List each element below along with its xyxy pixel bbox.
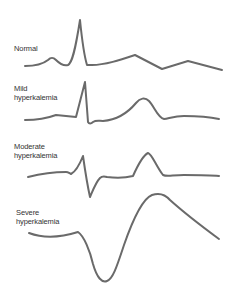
label-line: Mild [14,84,57,93]
label-severe-hyperkalemia: Severe hyperkalemia [16,208,59,226]
ecg-trace-normal [25,20,222,70]
label-mild-hyperkalemia: Mild hyperkalemia [14,84,57,102]
hyperkalemia-ecg-diagram: Normal Mild hyperkalemia Moderate hyperk… [0,0,232,294]
label-line: hyperkalemia [14,93,57,102]
label-normal: Normal [14,44,38,53]
label-line: Severe [16,208,59,217]
ecg-trace-severe-hyperkalemia [29,194,219,282]
label-moderate-hyperkalemia: Moderate hyperkalemia [14,142,57,160]
label-line: hyperkalemia [16,217,59,226]
label-line: Moderate [14,142,57,151]
label-line: Normal [14,44,38,53]
label-line: hyperkalemia [14,151,57,160]
